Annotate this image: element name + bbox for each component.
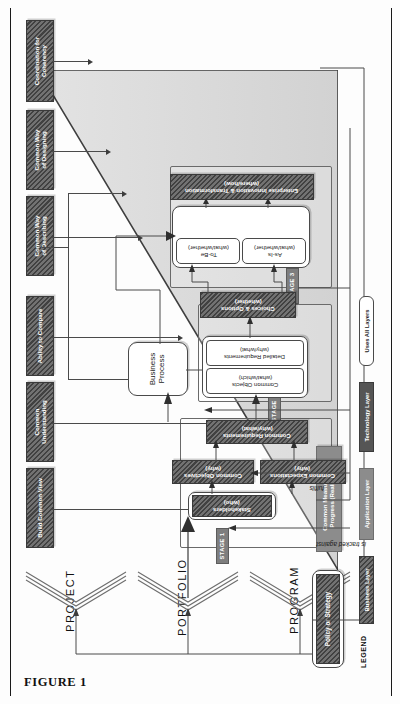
stage-label: STAGE 1 <box>219 532 225 559</box>
relation-fulfils: fulfils <box>309 485 324 492</box>
lead-common-way-designing-a <box>52 151 108 152</box>
node-business-process[interactable]: Business Process <box>128 342 188 396</box>
node-label: As-Is (what/whether) <box>254 244 295 258</box>
axis-label-program: PROGRAM <box>288 566 300 634</box>
node-choices-and-options[interactable]: Choices & Options (whether) <box>200 292 296 318</box>
arrow-ability-to-compare <box>178 335 183 341</box>
arrow-manifold-right <box>122 191 127 197</box>
lead-coordination-coherency <box>52 61 90 62</box>
legend-item-business-layer[interactable]: Business Layer <box>359 556 374 624</box>
figure-caption: FIGURE 1 <box>24 675 87 690</box>
relation-is-tracked-against: is tracked against <box>316 541 366 548</box>
lead-common-way-describing <box>52 237 140 238</box>
driver-label: Common Way of Designing <box>33 129 47 170</box>
legend-item-uses-all-layers[interactable]: Uses All Layers <box>359 296 374 366</box>
node-label: Detailed Requirements (why/what) <box>224 346 285 359</box>
node-label: Common Objectives (why) <box>184 465 242 478</box>
manifold-top <box>68 194 69 380</box>
input-policy-or-strategy[interactable]: Policy or Strategy <box>316 574 340 664</box>
driver-common-way-describing[interactable]: Common Way of Describing <box>26 196 54 276</box>
legend-label: Application Layer <box>364 480 370 529</box>
node-label: To-Be (what/whether) <box>188 244 229 258</box>
arrow-coordination-coherency <box>88 59 93 65</box>
node-label: Stakeholders (who) <box>213 499 251 512</box>
driver-common-understanding[interactable]: Common Understanding <box>26 382 54 462</box>
node-label: Choices & Options (whether) <box>221 298 275 311</box>
driver-label: Build Common View <box>36 478 43 538</box>
node-common-expectations[interactable]: Common Expectations (why) <box>260 460 346 484</box>
axis-label-project: PROJECT <box>64 569 76 632</box>
node-common-objectives[interactable]: Common Objectives (why) <box>172 460 254 484</box>
node-common-requirements[interactable]: Common Requirements (why/what) <box>206 420 308 444</box>
node-to-be[interactable]: To-Be (what/whether) <box>176 238 240 264</box>
driver-label: Common Understanding <box>33 400 47 444</box>
node-label: Common Objects (what/which) <box>232 374 278 387</box>
node-common-objects[interactable]: Common Objects (what/which) <box>206 368 304 394</box>
driver-label: Common Way of Describing <box>33 215 47 256</box>
lead-ability-to-compare <box>52 337 180 338</box>
driver-label: Ability to Compare <box>36 309 43 364</box>
arrow-common-way-describing <box>138 235 143 241</box>
input-label: Policy or Strategy <box>324 592 331 646</box>
legend-item-application-layer[interactable]: Application Layer <box>359 468 374 540</box>
arrow-common-way-designing-a <box>106 149 111 155</box>
lead-common-understanding <box>52 423 212 424</box>
driver-label: Coordination for Coherency <box>33 37 47 85</box>
node-label: Business Process <box>149 353 167 385</box>
node-enterprise-innovation[interactable]: Enterprise Innovation & Transformation (… <box>170 174 314 200</box>
driver-common-way-designing[interactable]: Common Way of Designing <box>26 110 54 190</box>
driver-build-common-view[interactable]: Build Common View <box>26 468 54 548</box>
node-detailed-requirements[interactable]: Detailed Requirements (why/what) <box>206 340 304 366</box>
diagram-canvas: Build Common View Common Understanding A… <box>20 16 380 688</box>
manifold-riser <box>42 247 68 248</box>
legend-title: LEGEND <box>360 635 367 668</box>
node-stakeholders[interactable]: Stakeholders (who) <box>192 495 272 517</box>
stage-label: STAGE 2 <box>271 394 277 421</box>
manifold-drop-right <box>68 193 124 194</box>
axis-label-portfolio: PORTFOLIO <box>176 558 188 636</box>
patent-figure-page: Build Common View Common Understanding A… <box>0 0 400 704</box>
legend-label: Business Layer <box>364 569 370 612</box>
node-label: Common Requirements (why/what) <box>223 425 291 438</box>
driver-coordination-coherency[interactable]: Coordination for Coherency <box>26 20 54 102</box>
stage-chip-1[interactable]: STAGE 1 <box>216 528 229 564</box>
legend-label: Technology Layer <box>364 392 370 441</box>
legend-label: Uses All Layers <box>364 310 370 353</box>
node-label: Enterprise Innovation & Transformation (… <box>185 180 298 193</box>
legend-item-technology-layer[interactable]: Technology Layer <box>359 382 374 452</box>
driver-ability-to-compare[interactable]: Ability to Compare <box>26 296 54 376</box>
node-as-is[interactable]: As-Is (what/whether) <box>242 238 306 264</box>
node-label: Common Expectations (why) <box>270 465 335 478</box>
